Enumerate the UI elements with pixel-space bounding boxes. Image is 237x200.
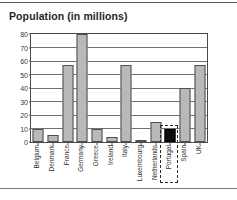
bar-portugal[interactable] [165, 129, 176, 143]
bar-belgium[interactable] [33, 129, 44, 143]
category-label-slot: France [59, 144, 74, 188]
category-label-slot: Italy [118, 144, 133, 188]
population-bar-chart-figure: Population (in millions) 010203040506070… [0, 0, 237, 200]
plot-area: 01020304050607080 [30, 33, 208, 143]
bar-greece[interactable] [91, 129, 102, 143]
bar-spain[interactable] [179, 88, 190, 142]
bar-slot [104, 34, 119, 142]
y-axis-tick-label: 20 [20, 112, 28, 119]
category-axis-labels: BelgiumDenmarkFranceGermanyGreeceIreland… [30, 144, 208, 188]
category-label-slot: Portugal [162, 144, 177, 188]
category-label-germany[interactable]: Germany [78, 145, 85, 172]
page-bottom-rule [0, 188, 237, 189]
category-label-slot: Greece [89, 144, 104, 188]
category-label-slot: Ireland [103, 144, 118, 188]
y-axis-tick-label: 30 [20, 98, 28, 105]
category-label-slot: UK [191, 144, 206, 188]
category-label-slot: Denmark [45, 144, 60, 188]
category-label-portugal[interactable]: Portugal [166, 145, 173, 169]
bar-italy[interactable] [121, 65, 132, 142]
y-axis-tick-label: 50 [20, 71, 28, 78]
bar-slot [148, 34, 163, 142]
bar-slot [60, 34, 75, 142]
category-label-ireland[interactable]: Ireland [107, 145, 114, 165]
y-axis-tick-label: 70 [20, 44, 28, 51]
bar-slot [178, 34, 193, 142]
category-label-belgium[interactable]: Belgium [34, 145, 41, 168]
bar-uk[interactable] [194, 65, 205, 142]
category-label-uk[interactable]: UK [195, 145, 202, 154]
category-label-netherlands[interactable]: Netherlands [151, 145, 158, 180]
category-label-luxembourg[interactable]: Luxembourg [137, 145, 144, 181]
bar-netherlands[interactable] [150, 122, 161, 142]
bars-group [31, 34, 207, 142]
y-axis-tick-label: 0 [24, 139, 28, 146]
category-label-denmark[interactable]: Denmark [49, 145, 56, 171]
page-top-rule [0, 2, 237, 3]
bar-slot [163, 34, 178, 142]
category-label-greece[interactable]: Greece [93, 145, 100, 166]
category-label-italy[interactable]: Italy [122, 145, 129, 157]
y-axis-tick-label: 10 [20, 125, 28, 132]
category-label-slot: Netherlands [147, 144, 162, 188]
chart-title: Population (in millions) [9, 10, 127, 22]
category-label-slot: Belgium [30, 144, 45, 188]
bar-slot [134, 34, 149, 142]
bar-germany[interactable] [77, 34, 88, 142]
bar-slot [46, 34, 61, 142]
bar-slot [75, 34, 90, 142]
category-label-slot: Germany [74, 144, 89, 188]
category-label-spain[interactable]: Spain [181, 145, 188, 162]
bar-slot [31, 34, 46, 142]
category-label-france[interactable]: France [63, 145, 70, 165]
bar-denmark[interactable] [47, 135, 58, 142]
category-label-slot: Luxembourg [133, 144, 148, 188]
y-axis-tick-label: 80 [20, 31, 28, 38]
bar-france[interactable] [62, 65, 73, 142]
bar-slot [90, 34, 105, 142]
bar-slot [192, 34, 207, 142]
bar-slot [119, 34, 134, 142]
category-label-slot: Spain [177, 144, 192, 188]
y-axis-tick-label: 40 [20, 85, 28, 92]
y-axis-tick-label: 60 [20, 58, 28, 65]
